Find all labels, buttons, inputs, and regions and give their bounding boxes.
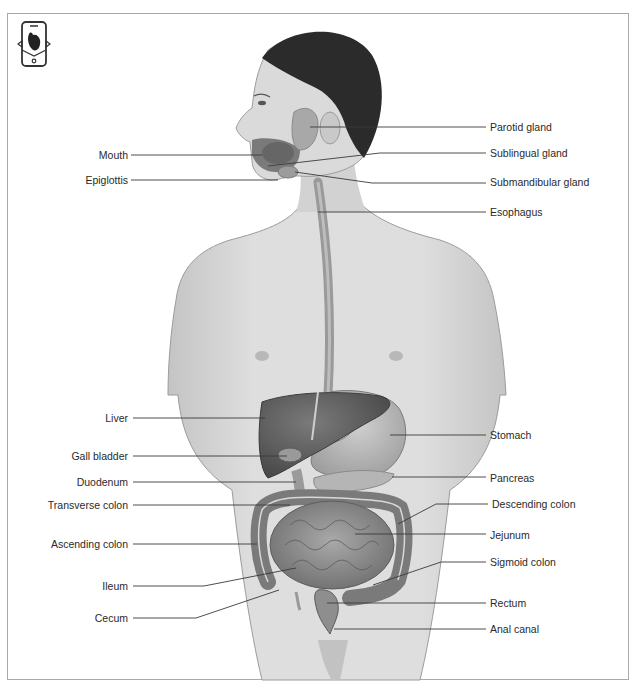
label-gall-bladder: Gall bladder	[40, 450, 128, 462]
label-liver: Liver	[60, 412, 128, 424]
anatomy-app-icon[interactable]	[16, 20, 52, 68]
label-sublingual-gland: Sublingual gland	[490, 147, 568, 159]
label-ascending-colon: Ascending colon	[10, 538, 128, 550]
label-stomach: Stomach	[490, 429, 531, 441]
gall-bladder-shape	[278, 448, 302, 462]
label-anal-canal: Anal canal	[490, 623, 539, 635]
label-sigmoid-colon: Sigmoid colon	[490, 556, 556, 568]
label-submandibular-gland: Submandibular gland	[490, 176, 589, 188]
label-transverse-colon: Transverse colon	[10, 499, 128, 511]
label-epiglottis: Epiglottis	[50, 174, 128, 186]
label-cecum: Cecum	[60, 612, 128, 624]
label-mouth: Mouth	[60, 149, 128, 161]
label-pancreas: Pancreas	[490, 472, 534, 484]
label-descending-colon: Descending colon	[492, 498, 575, 510]
small-intestine-shape	[270, 501, 394, 589]
label-rectum: Rectum	[490, 597, 526, 609]
label-parotid-gland: Parotid gland	[490, 121, 552, 133]
label-esophagus: Esophagus	[490, 206, 543, 218]
head	[236, 32, 382, 180]
label-jejunum: Jejunum	[490, 529, 530, 541]
label-duodenum: Duodenum	[40, 476, 128, 488]
label-ileum: Ileum	[60, 580, 128, 592]
